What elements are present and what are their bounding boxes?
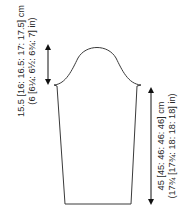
sleeve-schematic: 15.5 [16: 16.5: 17: 17.5] cm (6 [6¼: 6½:…: [0, 0, 193, 220]
sleeve-length-label-cm: 45 [45: 46: 46: 46] cm: [156, 101, 166, 190]
cap-height-label-in: (6 [6¼: 6½: 6¾: 7] in): [27, 17, 37, 104]
sleeve-length-label-in: (17¾ [17¾: 18: 18: 18] in): [167, 93, 177, 198]
cap-height-label-cm: 15.5 [16: 16.5: 17: 17.5] cm: [16, 5, 26, 117]
sleeve-outline: [54, 48, 141, 205]
